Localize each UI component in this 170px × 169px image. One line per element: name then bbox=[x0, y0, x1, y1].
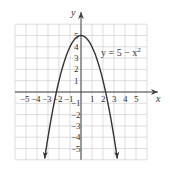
parabola-chart: −5−4−3−2−11234554321−1−2−3−4−5 y = 5 − x… bbox=[0, 0, 170, 169]
axes bbox=[15, 12, 158, 160]
svg-text:−1: −1 bbox=[71, 98, 81, 108]
svg-text:−2: −2 bbox=[71, 110, 81, 120]
x-axis-label: x bbox=[155, 93, 161, 104]
svg-text:4: 4 bbox=[123, 94, 128, 104]
svg-text:1: 1 bbox=[74, 76, 79, 86]
svg-text:2: 2 bbox=[74, 64, 79, 74]
svg-text:−3: −3 bbox=[71, 121, 81, 131]
svg-text:3: 3 bbox=[74, 53, 79, 63]
svg-text:−4: −4 bbox=[31, 94, 41, 104]
equation-label: y = 5 − x2 bbox=[101, 46, 141, 58]
svg-text:−5: −5 bbox=[20, 94, 30, 104]
svg-text:5: 5 bbox=[134, 94, 139, 104]
svg-text:3: 3 bbox=[112, 94, 117, 104]
y-axis-label: y bbox=[70, 7, 76, 18]
svg-text:4: 4 bbox=[74, 42, 79, 52]
svg-text:1: 1 bbox=[90, 94, 95, 104]
svg-text:−3: −3 bbox=[42, 94, 52, 104]
svg-text:−5: −5 bbox=[71, 144, 81, 154]
svg-text:2: 2 bbox=[101, 94, 106, 104]
svg-text:−4: −4 bbox=[71, 132, 81, 142]
